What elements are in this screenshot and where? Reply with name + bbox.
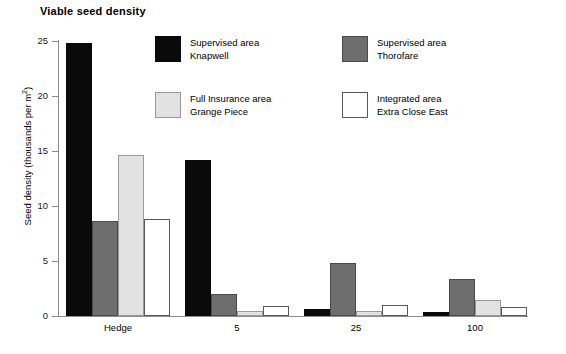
legend-label-line2: Knapwell xyxy=(190,49,259,62)
legend-item[interactable]: Supervised areaThorofare xyxy=(342,36,446,62)
legend-item[interactable]: Integrated areaExtra Close East xyxy=(342,92,448,118)
x-axis-tick-label: Hedge xyxy=(88,322,148,333)
bar[interactable] xyxy=(330,263,356,316)
legend-item[interactable]: Full Insurance areaGrange Piece xyxy=(155,92,271,118)
legend-item[interactable]: Supervised areaKnapwell xyxy=(155,36,259,62)
legend-label: Supervised areaKnapwell xyxy=(190,36,259,62)
x-axis-tick-label: 25 xyxy=(326,322,386,333)
x-axis-line xyxy=(58,316,528,317)
legend-swatch-icon xyxy=(155,36,181,62)
chart-title: Viable seed density xyxy=(40,5,146,17)
y-axis-tick xyxy=(52,316,58,317)
bar[interactable] xyxy=(263,306,289,316)
legend-label-line2: Thorofare xyxy=(377,49,446,62)
x-axis-tick-label: 100 xyxy=(445,322,505,333)
legend-label: Full Insurance areaGrange Piece xyxy=(190,92,271,118)
legend-label: Supervised areaThorofare xyxy=(377,36,446,62)
y-axis-unit-exponent: 2 xyxy=(21,90,28,94)
legend-label-line1: Full Insurance area xyxy=(190,92,271,105)
legend-swatch-icon xyxy=(342,36,368,62)
legend-label-line2: Grange Piece xyxy=(190,105,271,118)
legend-label-line1: Integrated area xyxy=(377,92,448,105)
legend-label: Integrated areaExtra Close East xyxy=(377,92,448,118)
bar[interactable] xyxy=(237,311,263,317)
bar[interactable] xyxy=(501,307,527,316)
bar[interactable] xyxy=(304,309,330,316)
bar[interactable] xyxy=(382,305,408,316)
bar[interactable] xyxy=(92,221,118,316)
bar[interactable] xyxy=(211,294,237,316)
y-axis-tick-label: 0 xyxy=(28,310,48,321)
y-axis-tick-label: 5 xyxy=(28,255,48,266)
chart-legend: Supervised areaKnapwellSupervised areaTh… xyxy=(155,36,495,126)
bar[interactable] xyxy=(475,300,501,317)
bar[interactable] xyxy=(356,311,382,317)
legend-label-line1: Supervised area xyxy=(377,36,446,49)
bar[interactable] xyxy=(144,219,170,316)
legend-label-line2: Extra Close East xyxy=(377,105,448,118)
bar[interactable] xyxy=(118,155,144,316)
legend-swatch-icon xyxy=(155,92,181,118)
chart-container: Viable seed density 0510152025 Seed dens… xyxy=(0,0,566,354)
y-axis-title: Seed density (thousands per m2) xyxy=(21,56,33,256)
legend-swatch-icon xyxy=(342,92,368,118)
bar[interactable] xyxy=(66,43,92,316)
legend-label-line1: Supervised area xyxy=(190,36,259,49)
bar[interactable] xyxy=(423,312,449,316)
bar[interactable] xyxy=(449,279,475,316)
x-axis-tick-label: 5 xyxy=(207,322,267,333)
bar[interactable] xyxy=(185,160,211,316)
y-axis-tick-label: 25 xyxy=(28,35,48,46)
